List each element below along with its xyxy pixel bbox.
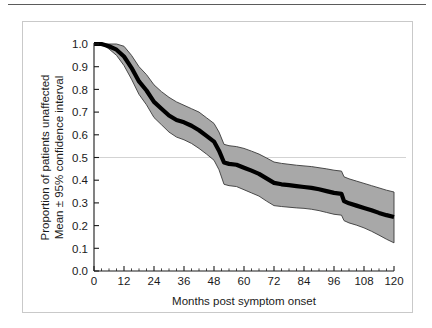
y-axis-tick-label: 0.7 bbox=[72, 106, 88, 118]
x-axis-tick-label: 24 bbox=[148, 275, 161, 287]
x-axis-tick-label: 84 bbox=[298, 275, 311, 287]
x-axis-tick-label: 108 bbox=[354, 275, 373, 287]
top-horizontal-rule bbox=[8, 4, 426, 5]
y-axis-tick-label: 0.2 bbox=[72, 220, 88, 232]
y-axis-tick-label: 1.0 bbox=[72, 38, 88, 50]
y-axis-tick-label: 0.9 bbox=[72, 61, 88, 73]
y-axis-tick-label: 0.1 bbox=[72, 243, 88, 255]
x-axis-tick-label: 96 bbox=[328, 275, 341, 287]
x-axis-tick-label: 36 bbox=[178, 275, 191, 287]
x-axis-tick-label: 0 bbox=[91, 275, 97, 287]
y-axis-tick-label: 0.5 bbox=[72, 152, 88, 164]
x-axis-tick-label: 72 bbox=[268, 275, 281, 287]
y-axis-tick-label: 0.8 bbox=[72, 84, 88, 96]
x-axis-tick-label: 48 bbox=[208, 275, 221, 287]
x-axis-tick-label: 12 bbox=[118, 275, 131, 287]
x-axis-title: Months post symptom onset bbox=[172, 295, 317, 307]
x-axis-tick-label: 60 bbox=[238, 275, 251, 287]
y-axis-tick-label: 0.0 bbox=[72, 265, 88, 277]
y-axis-title-line2: Mean ± 95% confidence interval bbox=[53, 76, 65, 240]
y-axis-tick-label: 0.3 bbox=[72, 197, 88, 209]
confidence-interval-band bbox=[94, 44, 394, 243]
x-axis-tick-label: 120 bbox=[384, 275, 403, 287]
survival-curve-chart: 012243648607284961081200.00.10.20.30.40.… bbox=[23, 22, 412, 312]
y-axis-tick-label: 0.4 bbox=[72, 174, 89, 186]
figure-container: 012243648607284961081200.00.10.20.30.40.… bbox=[22, 21, 413, 313]
y-axis-tick-label: 0.6 bbox=[72, 129, 88, 141]
y-axis-title-line1: Proportion of patients unaffected bbox=[39, 74, 51, 240]
